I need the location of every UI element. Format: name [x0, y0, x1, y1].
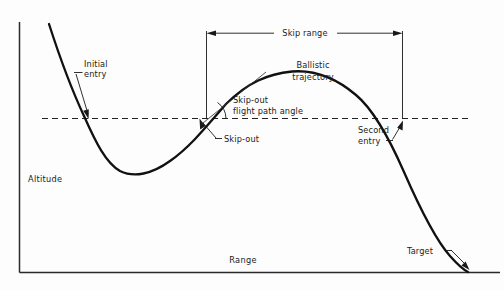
second-entry-label-line1: Second — [358, 125, 389, 135]
y-axis-label: Altitude — [28, 174, 62, 184]
skip-out-angle-label-line2: flight path angle — [233, 106, 303, 116]
initial-entry-label-line2: entry — [84, 69, 106, 79]
second-entry-annotation: Second entry — [358, 121, 403, 147]
initial-entry-label-line1: Initial — [84, 59, 108, 69]
second-entry-label-line2: entry — [358, 136, 380, 146]
skip-out-label: Skip-out — [224, 134, 260, 144]
second-entry-arrowhead — [397, 121, 403, 131]
diagram-canvas: Skip range Initial entry Ballistic traje… — [0, 0, 504, 290]
skip-trajectory-diagram: Skip range Initial entry Ballistic traje… — [0, 0, 504, 290]
target-label: Target — [406, 246, 434, 256]
skip-out-angle-label-line1: Skip-out — [233, 95, 269, 105]
target-pointer-line — [451, 250, 465, 264]
skip-range-label: Skip range — [282, 28, 327, 38]
skip-trajectory-curve — [49, 24, 468, 272]
ballistic-trajectory-label-line1: Ballistic — [296, 60, 329, 70]
skip-out-annotation: Skip-out — [200, 119, 260, 145]
initial-entry-annotation: Initial entry — [74, 59, 108, 119]
initial-entry-pointer-line — [76, 74, 88, 114]
x-axis-label: Range — [229, 255, 256, 265]
ballistic-trajectory-label-line2: trajectory — [292, 72, 333, 82]
second-entry-pointer-line — [393, 127, 401, 140]
